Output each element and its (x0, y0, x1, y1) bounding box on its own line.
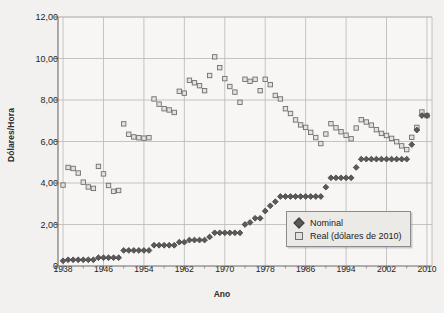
legend-label-real: Real (dólares de 2010) (310, 231, 402, 241)
data-point-real (202, 88, 206, 92)
chart-figure: Dólares/Hora 02,004,006,008,0010,0012,00… (0, 0, 444, 313)
data-point-real (238, 100, 242, 104)
data-point-real (207, 73, 211, 77)
data-point-real (405, 147, 409, 151)
data-point-real (132, 135, 136, 139)
data-point-real (309, 130, 313, 134)
x-axis-title: Ano (0, 289, 444, 299)
data-point-real (192, 81, 196, 85)
data-point-real (212, 55, 216, 59)
data-point-real (278, 97, 282, 101)
data-point-real (122, 122, 126, 126)
data-point-real (268, 82, 272, 86)
data-point-real (410, 135, 414, 139)
diamond-marker-icon (293, 219, 304, 227)
data-point-real (233, 90, 237, 94)
data-point-real (106, 183, 110, 187)
data-point-real (66, 165, 70, 169)
data-point-real (218, 65, 222, 69)
legend-item-nominal[interactable]: Nominal (293, 216, 402, 229)
data-point-real (61, 183, 65, 187)
data-point-real (172, 110, 176, 114)
data-point-real (243, 77, 247, 81)
data-point-real (258, 88, 262, 92)
data-point-real (389, 136, 393, 140)
data-point-real (111, 189, 115, 193)
data-point-real (223, 76, 227, 80)
data-point-real (298, 123, 302, 127)
square-marker-icon (293, 232, 304, 240)
data-point-real (71, 166, 75, 170)
data-point-real (253, 77, 257, 81)
data-point-real (334, 126, 338, 130)
data-point-real (91, 186, 95, 190)
data-point-real (86, 185, 90, 189)
data-point-real (182, 91, 186, 95)
data-point-real (364, 120, 368, 124)
data-point-real (76, 171, 80, 175)
data-point-real (349, 137, 353, 141)
data-point-real (369, 123, 373, 127)
data-point-real (197, 83, 201, 87)
data-point-real (354, 126, 358, 130)
data-point-real (399, 144, 403, 148)
data-point-real (147, 136, 151, 140)
data-point-real (339, 130, 343, 134)
data-point-real (288, 111, 292, 115)
data-point-real (248, 79, 252, 83)
data-point-real (177, 89, 181, 93)
data-point-real (152, 97, 156, 101)
chart-legend: Nominal Real (dólares de 2010) (286, 211, 411, 247)
data-point-real (319, 141, 323, 145)
data-point-real (187, 78, 191, 82)
data-point-real (283, 107, 287, 111)
data-point-real (394, 140, 398, 144)
data-point-real (137, 136, 141, 140)
data-point-real (127, 132, 131, 136)
data-point-real (157, 102, 161, 106)
data-point-real (101, 172, 105, 176)
data-point-real (374, 127, 378, 131)
data-point-real (81, 180, 85, 184)
data-point-real (329, 121, 333, 125)
data-point-real (384, 133, 388, 137)
data-point-real (273, 93, 277, 97)
data-point-real (344, 133, 348, 137)
data-point-real (263, 77, 267, 81)
data-point-real (162, 107, 166, 111)
data-point-real (142, 136, 146, 140)
data-point-real (303, 125, 307, 129)
data-point-real (379, 131, 383, 135)
data-point-real (228, 84, 232, 88)
data-point-real (116, 188, 120, 192)
legend-label-nominal: Nominal (310, 218, 343, 228)
data-point-real (359, 118, 363, 122)
data-point-real (167, 108, 171, 112)
data-point-real (293, 118, 297, 122)
plot-area (0, 0, 444, 313)
data-point-real (96, 164, 100, 168)
data-point-real (314, 135, 318, 139)
legend-item-real[interactable]: Real (dólares de 2010) (293, 229, 402, 242)
data-point-real (324, 132, 328, 136)
